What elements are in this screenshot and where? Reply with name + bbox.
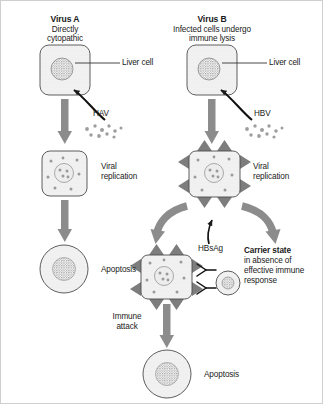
lymphocyte xyxy=(216,271,240,295)
apoptotic-cell-b xyxy=(143,350,191,398)
column-a-subtitle-line2: cytopathic xyxy=(25,34,105,44)
label-immune-attack-line2: attack xyxy=(101,322,153,332)
spiked-infected-cell-b xyxy=(178,140,251,208)
label-apoptosis-b: Apoptosis xyxy=(204,370,239,380)
arrow-a-replication-to-apoptosis xyxy=(58,200,73,242)
apoptotic-cell-a xyxy=(40,245,88,293)
label-viral-replication-a-line1: Viral xyxy=(101,162,117,172)
column-b-subtitle-line2: immune lysis xyxy=(152,34,272,44)
label-hav: HAV xyxy=(93,109,109,119)
hbv-infection-arrow xyxy=(221,90,252,120)
label-carrier-state-line3: response xyxy=(244,276,277,286)
figure-panel: Virus A Directly cytopathic Liver cell H… xyxy=(0,0,323,404)
label-carrier-state-heading: Carrier state xyxy=(244,246,291,256)
arrow-a-infection-to-replication xyxy=(58,99,73,144)
label-hbv: HBV xyxy=(254,109,271,119)
label-immune-attack-line1: Immune xyxy=(101,312,153,322)
viral-replication-cell-a xyxy=(42,151,87,196)
label-liver-cell-b: Liver cell xyxy=(269,58,300,68)
arrow-b-infection-to-replication xyxy=(205,99,220,144)
label-viral-replication-b-line1: Viral xyxy=(253,162,269,172)
immune-attacked-cell xyxy=(130,244,203,310)
hbsag-pointer-arrow xyxy=(208,220,212,244)
arrow-b-to-immune-attack-cell xyxy=(151,206,188,244)
label-viral-replication-a-line2: replication xyxy=(101,172,137,182)
column-b-title: Virus B xyxy=(162,15,262,25)
label-liver-cell-a: Liver cell xyxy=(122,58,153,68)
label-hbsag: HBsAg xyxy=(198,244,223,254)
label-viral-replication-b-line2: replication xyxy=(253,172,289,182)
label-carrier-state-line2: effective immune xyxy=(244,266,304,276)
arrow-b-immune-attack-to-apoptosis xyxy=(160,304,175,348)
liver-cell-a xyxy=(40,45,90,95)
liver-cell-b xyxy=(187,45,237,95)
hav-particles xyxy=(85,124,122,138)
label-apoptosis-a: Apoptosis xyxy=(101,265,136,275)
hbv-particles xyxy=(245,124,283,138)
arrow-b-to-carrier-state xyxy=(242,206,281,244)
label-carrier-state-line1: in absence of xyxy=(244,256,291,266)
column-a-title: Virus A xyxy=(25,15,105,25)
